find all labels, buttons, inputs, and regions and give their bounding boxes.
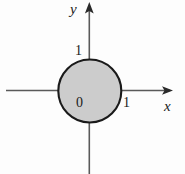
origin-label: 0 [76, 96, 83, 110]
unit-disk-shape [58, 60, 121, 123]
coordinate-plane-graphic [0, 0, 185, 174]
y-axis-label: y [70, 2, 77, 17]
x-axis-tick-label-one: 1 [123, 96, 130, 110]
figure-container: y x 1 1 0 [0, 0, 185, 174]
x-axis-label: x [164, 99, 171, 114]
y-axis-tick-label-one: 1 [75, 44, 82, 58]
